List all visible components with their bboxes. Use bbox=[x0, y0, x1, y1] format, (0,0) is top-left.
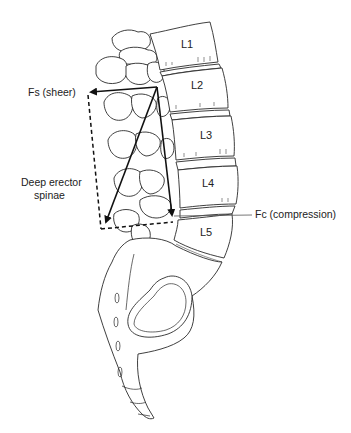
label-L1: L1 bbox=[181, 38, 193, 50]
label-L2: L2 bbox=[191, 79, 203, 91]
label-erector-spinae-line1: Deep erector bbox=[21, 176, 82, 188]
label-compression-force: Fc (compression) bbox=[255, 208, 336, 220]
label-shear-force: Fs (sheer) bbox=[28, 86, 76, 98]
sacrum-coccyx bbox=[98, 238, 222, 419]
label-L3: L3 bbox=[200, 129, 212, 141]
label-L4: L4 bbox=[202, 177, 214, 189]
label-erector-spinae-line2: spinae bbox=[34, 189, 65, 201]
label-L5: L5 bbox=[200, 226, 212, 238]
shear-force-arrow bbox=[91, 87, 157, 92]
shear-component-dashed-line bbox=[88, 95, 101, 229]
lumbar-spine-force-diagram: L1 L2 L3 L4 L5 Fs (sheer) Fc (compressio… bbox=[0, 0, 351, 433]
